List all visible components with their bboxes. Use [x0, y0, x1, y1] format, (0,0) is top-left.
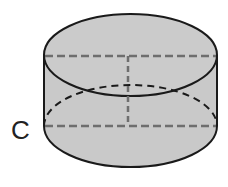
figure-label: C	[11, 115, 30, 146]
cylinder-diagram	[0, 0, 228, 187]
